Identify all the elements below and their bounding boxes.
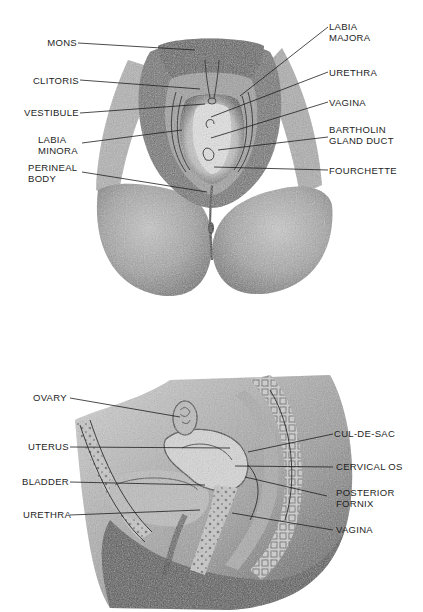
- sagittal-pelvis-figure: OVARY UTERUS BLADDER URETHRA CUL-DE-SAC …: [0, 370, 423, 612]
- label-fourchette: FOURCHETTE: [329, 165, 397, 176]
- label-mons: MONS: [20, 37, 77, 48]
- label-labia-majora-line1: LABIA: [329, 21, 370, 32]
- label-posterior-fornix-line1: POSTERIOR: [336, 487, 395, 498]
- label-vestibule: VESTIBULE: [0, 107, 79, 118]
- label-bartholin-line2: GLAND DUCT: [329, 135, 394, 146]
- label-urethra-bottom: URETHRA: [23, 509, 71, 520]
- label-urethra-top: URETHRA: [329, 67, 377, 78]
- label-labia-minora-line1: LABIA: [38, 134, 78, 145]
- label-labia-minora-line2: MINORA: [38, 145, 78, 156]
- label-clitoris: CLITORIS: [10, 75, 79, 86]
- label-uterus: UTERUS: [28, 441, 69, 452]
- external-genitalia-figure: MONS CLITORIS VESTIBULE LABIA MINORA PER…: [0, 0, 423, 330]
- label-perineal-body-line1: PERINEAL: [28, 162, 77, 173]
- label-vagina-top: VAGINA: [329, 97, 366, 108]
- label-cervical-os: CERVICAL OS: [336, 461, 403, 472]
- label-posterior-fornix-line2: FORNIX: [336, 498, 395, 509]
- label-bartholin-line1: BARTHOLIN: [329, 124, 394, 135]
- label-ovary: OVARY: [33, 392, 67, 403]
- label-posterior-fornix: POSTERIOR FORNIX: [336, 487, 395, 509]
- label-cul-de-sac: CUL-DE-SAC: [334, 428, 395, 439]
- label-perineal-body-line2: BODY: [28, 173, 77, 184]
- label-labia-majora: LABIA MAJORA: [329, 21, 370, 43]
- label-perineal-body: PERINEAL BODY: [28, 162, 77, 184]
- label-labia-majora-line2: MAJORA: [329, 32, 370, 43]
- label-vagina-bottom: VAGINA: [336, 524, 373, 535]
- label-bartholin-gland-duct: BARTHOLIN GLAND DUCT: [329, 124, 394, 146]
- label-labia-minora: LABIA MINORA: [38, 134, 78, 156]
- label-bladder: BLADDER: [22, 476, 69, 487]
